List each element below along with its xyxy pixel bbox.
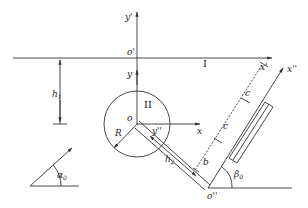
label-y-dblprime: y'' — [151, 126, 162, 136]
label-region-II: II — [144, 99, 152, 110]
label-y-prime: y' — [124, 12, 133, 22]
label-alpha0: α0 — [57, 170, 67, 181]
label-o: o — [127, 113, 133, 123]
diagram-canvas: y' o' x' I y II o x R h1 y'' h2 b c c x'… — [0, 0, 308, 208]
label-R: R — [114, 128, 122, 138]
label-h2: h2 — [165, 154, 175, 165]
label-x-prime: x' — [260, 62, 268, 72]
label-o-dblprime: o'' — [207, 191, 217, 201]
beta0-arc — [222, 167, 232, 188]
label-beta0: β0 — [233, 169, 243, 180]
label-x-dblprime: x'' — [287, 64, 297, 74]
label-x: x — [197, 126, 202, 136]
label-c2: c — [245, 88, 250, 98]
label-y: y — [126, 69, 133, 79]
label-b: b — [203, 157, 209, 167]
label-c1: c — [223, 121, 228, 131]
x-dblprime-axis — [208, 68, 283, 188]
label-region-I: I — [203, 58, 207, 69]
label-o-prime: o' — [127, 47, 135, 57]
